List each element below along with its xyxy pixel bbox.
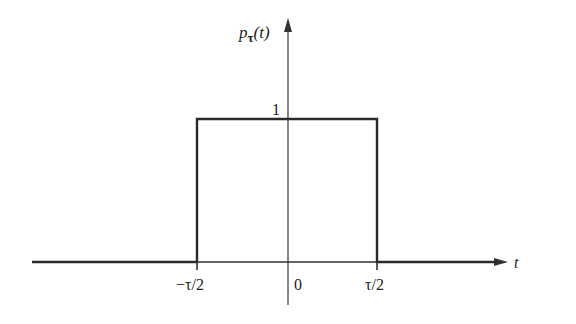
pulse-diagram: t 1 −τ/2 0 τ/2 pτ(t) [0, 0, 576, 324]
tick-label-right: τ/2 [365, 276, 384, 293]
t-axis-label: t [514, 254, 519, 271]
p-axis-arrow-icon [284, 18, 292, 32]
y-axis-label-arg: (t) [254, 23, 270, 42]
height-label: 1 [272, 101, 280, 118]
diagram-canvas: t 1 −τ/2 0 τ/2 pτ(t) [0, 0, 576, 324]
y-axis-label-base: p [238, 23, 248, 42]
tick-label-left: −τ/2 [176, 276, 204, 293]
pulse-curve [32, 119, 498, 262]
y-axis-label: pτ(t) [238, 23, 270, 45]
tick-label-origin: 0 [294, 276, 302, 293]
